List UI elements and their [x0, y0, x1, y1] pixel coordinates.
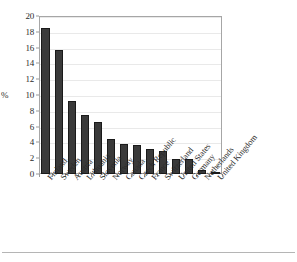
- y-axis-tick-label: 8: [30, 106, 34, 115]
- y-axis-tick-label: 2: [30, 154, 34, 163]
- y-axis-title: %: [1, 91, 9, 100]
- y-axis: % 02468101214161820: [0, 16, 39, 174]
- y-axis-tick-label: 10: [25, 91, 34, 100]
- footer-divider: [2, 252, 295, 253]
- y-axis-tick-label: 14: [25, 59, 34, 68]
- y-axis-tick-label: 12: [25, 75, 34, 84]
- x-axis-labels: FinlandSwedenAustriaLithuaniaSloveniaNor…: [0, 176, 297, 260]
- bar-chart-figure: % 02468101214161820 FinlandSwedenAustria…: [0, 0, 297, 262]
- y-axis-tick-label: 16: [25, 43, 34, 52]
- y-axis-tick-label: 4: [30, 138, 34, 147]
- y-axis-tick-label: 18: [25, 27, 34, 36]
- y-axis-tick-label: 6: [30, 122, 34, 131]
- bar: [41, 28, 49, 174]
- y-axis-tick-label: 20: [25, 12, 34, 21]
